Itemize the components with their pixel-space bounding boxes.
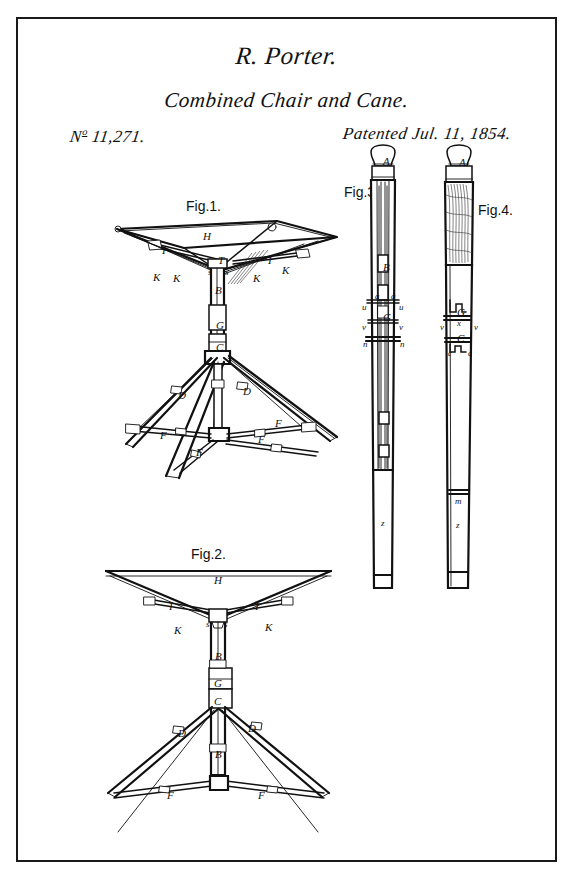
figure-1-caption: Fig.1. [186,198,221,214]
reference-letter-fig1-8: s [208,268,212,277]
reference-letter-fig3-1: B [383,262,390,273]
reference-letter-fig2-4: K [265,622,272,633]
reference-letter-fig2-6: s [224,620,228,629]
reference-letter-fig1-6: K [253,273,260,284]
reference-letter-fig4-1: G [457,307,465,318]
reference-letter-fig3-8: v [399,323,403,332]
reference-letter-fig1-10: B [215,285,222,296]
reference-letter-fig2-1: I [169,601,173,612]
reference-letter-fig4-3: v [440,323,444,332]
reference-letter-fig4-6: c [448,349,452,358]
reference-letter-fig4-5: C [457,333,464,344]
reference-letter-fig1-3: T [218,255,224,266]
reference-letter-fig1-15: F [160,430,167,441]
reference-letter-fig1-1: I [162,245,166,256]
patent-number: No 11,271. [69,126,147,147]
reference-letter-fig3-3: a [391,292,396,301]
reference-letter-fig4-9: z [456,521,460,530]
reference-letter-fig3-7: v [362,323,366,332]
reference-letter-fig2-11: D [248,723,256,734]
reference-letter-fig3-2: a [375,292,380,301]
reference-letter-fig1-16: F [258,434,265,445]
patent-number-value: 11,271. [91,127,147,146]
reference-letter-fig3-5: u [399,303,404,312]
figure-4-caption: Fig.4. [478,202,513,218]
reference-letter-fig3-4: u [362,303,367,312]
reference-letter-fig3-9: n [363,340,368,349]
reference-letter-fig1-12: C [216,342,223,353]
reference-letter-fig3-6: G [383,312,391,323]
patent-date: Patented Jul. 11, 1854. [342,124,513,144]
reference-letter-fig1-13: D [178,390,186,401]
reference-letter-fig2-3: K [174,625,181,636]
reference-letter-fig1-2: I [268,255,272,266]
reference-letter-fig1-17: F [196,447,203,458]
reference-letter-fig2-0: H [214,575,222,586]
reference-letter-fig3-10: n [400,340,405,349]
figure-3-caption: Fig.3. [344,184,379,200]
reference-letter-fig1-14: D [243,386,251,397]
reference-letter-fig1-11: G [216,320,224,331]
reference-letter-fig1-4: K [153,272,160,283]
reference-letter-fig2-8: G [214,678,222,689]
reference-letter-fig2-5: s [206,620,210,629]
reference-letter-fig4-7: c [468,349,472,358]
reference-letter-fig3-11: z [381,519,385,528]
reference-letter-fig1-0: H [203,231,211,242]
reference-letter-fig1-9: s [225,268,229,277]
reference-letter-fig4-2: x [457,319,461,328]
figure-2-caption: Fig.2. [191,546,226,562]
reference-letter-fig2-10: D [178,728,186,739]
reference-letter-fig2-2: I [255,601,259,612]
reference-letter-fig2-14: B [215,749,222,760]
patent-number-superscript: o [82,126,89,137]
reference-letter-fig1-7: K [282,265,289,276]
reference-letter-fig2-12: F [167,790,174,801]
reference-letter-fig4-4: v [474,323,478,332]
inventor-name: R. Porter. [0,42,573,70]
reference-letter-fig1-5: K [173,273,180,284]
reference-letter-fig3-0: A [383,156,390,167]
reference-letter-fig2-13: F [258,790,265,801]
reference-letter-fig4-0: A [459,157,466,168]
reference-letter-fig4-8: m [455,497,462,506]
page-title: Combined Chair and Cane. [0,88,573,113]
reference-letter-fig1-18: F [275,418,282,429]
reference-letter-fig2-7: B [215,651,222,662]
reference-letter-fig2-9: C [214,696,221,707]
patent-drawing-sheet: R. Porter. Combined Chair and Cane. No 1… [0,0,573,872]
